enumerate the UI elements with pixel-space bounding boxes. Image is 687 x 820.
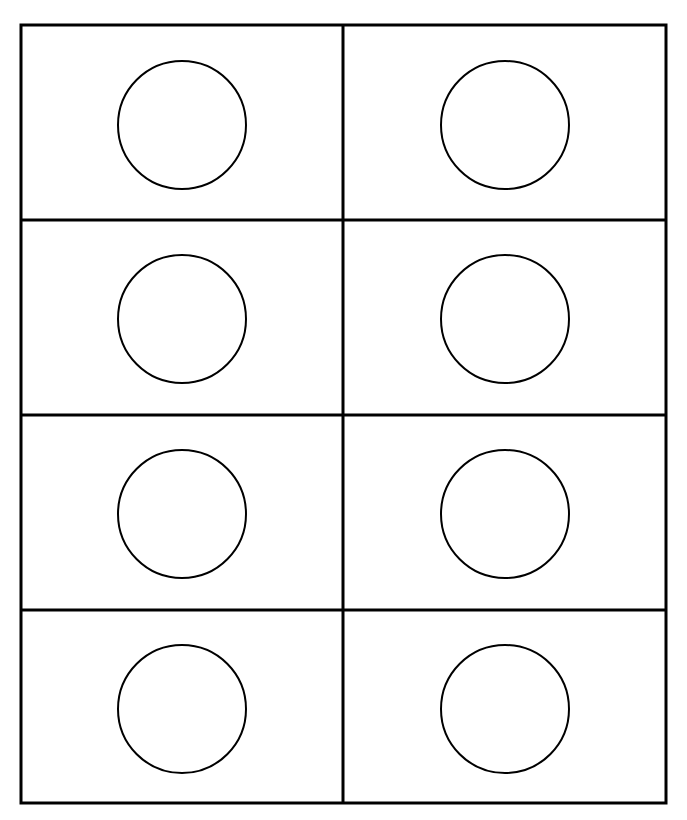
grid-cell-r2-c1 bbox=[118, 255, 246, 383]
grid-cell-r4-c2 bbox=[441, 645, 569, 773]
circle-shape bbox=[118, 255, 246, 383]
circle-shape bbox=[118, 450, 246, 578]
circle-shape bbox=[118, 61, 246, 189]
grid-lines bbox=[21, 25, 666, 803]
grid-cell-r1-c2 bbox=[441, 61, 569, 189]
grid-cell-r4-c1 bbox=[118, 645, 246, 773]
circle-shape bbox=[118, 645, 246, 773]
circle-shape bbox=[441, 450, 569, 578]
grid-cell-r1-c1 bbox=[118, 61, 246, 189]
circle-shape bbox=[441, 645, 569, 773]
grid-cell-r3-c1 bbox=[118, 450, 246, 578]
circle-shape bbox=[441, 61, 569, 189]
grid-cell-r2-c2 bbox=[441, 255, 569, 383]
circle-shape bbox=[441, 255, 569, 383]
grid-of-circles-diagram bbox=[0, 0, 687, 820]
grid-cell-r3-c2 bbox=[441, 450, 569, 578]
